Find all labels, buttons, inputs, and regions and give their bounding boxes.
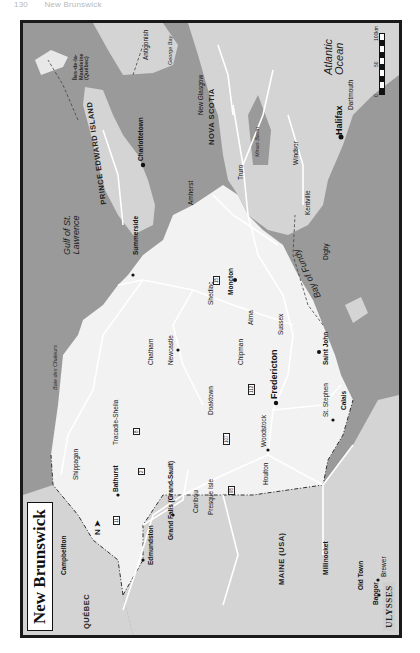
city-halifax: Halifax: [335, 105, 344, 135]
city-millinocket: Millinocket: [323, 541, 330, 575]
city-summerside: Summerside: [133, 216, 140, 255]
city-caribou: Caribou: [193, 490, 200, 513]
city-edmundston: Edmundston: [148, 525, 155, 565]
route-shield: 8: [133, 428, 140, 435]
city-campbellton: Campbellton: [61, 536, 68, 575]
page-number: 130: [14, 0, 28, 9]
city-alma: Alma: [248, 310, 255, 325]
route-shield: 107: [223, 433, 230, 445]
city-brewer: Brewer: [381, 556, 388, 577]
city-sussex: Sussex: [278, 314, 285, 335]
city-fredericton: Fredericton: [270, 349, 279, 399]
city-tracadie: Tracadie-Sheila: [113, 400, 120, 445]
route-shield: 11: [113, 516, 120, 525]
city-digby: Digby: [323, 243, 330, 260]
city-calais: Calais: [341, 391, 348, 410]
city-bathurst: Bathurst: [113, 465, 120, 492]
water-chaleur: Baie des Chaleurs: [53, 345, 59, 390]
city-shediac: Shediac: [208, 282, 215, 306]
chapter-title: New Brunswick: [44, 0, 101, 9]
city-grand-falls: Grand Falls (Grand-Sault): [168, 461, 175, 540]
city-windsor: Windsor: [293, 141, 300, 165]
scale-tick-0: 0: [373, 94, 379, 97]
city-newcastle: Newcastle: [168, 335, 175, 365]
north-label: N: [93, 529, 102, 535]
page-header: 130 New Brunswick: [14, 0, 102, 9]
route-shield: 95: [228, 486, 235, 495]
city-st-stephen: St. Stephen: [323, 383, 330, 417]
map-frame: New Brunswick N ➤ QUÉBEC MAINE (USA) PRI…: [20, 20, 402, 638]
city-bangor: Bangor: [373, 582, 380, 605]
city-chatham: Chatham: [148, 339, 155, 365]
map-canvas: New Brunswick N ➤ QUÉBEC MAINE (USA) PRI…: [23, 23, 399, 635]
region-magdalen: Îles-de-la-Madeleine (Québec): [73, 34, 90, 80]
water-atlantic: Atlantic Ocean: [323, 25, 345, 75]
city-houlton: Houlton: [263, 463, 270, 485]
route-shield: 112: [248, 384, 255, 395]
city-chipman: Chipman: [238, 339, 245, 365]
publisher-logo: ULYSSES: [383, 582, 395, 631]
city-woodstock: Woodstock: [261, 415, 268, 447]
city-truro: Truro: [238, 165, 245, 180]
water-gulf: Gulf of St. Lawrence: [63, 205, 81, 265]
region-maine: MAINE (USA): [278, 532, 286, 585]
region-nova-scotia: NOVA SCOTIA: [208, 88, 216, 145]
city-old-town: Old Town: [358, 561, 365, 590]
scale-tick-50: 50: [373, 61, 379, 67]
city-charlottetown: Charlottetown: [138, 117, 145, 161]
water-george-bay: George Bay: [168, 36, 174, 65]
city-amherst: Amherst: [188, 181, 195, 205]
north-arrow-icon: N ➤: [93, 520, 102, 535]
city-moncton: Moncton: [228, 268, 235, 295]
city-antigonish: Antigonish: [143, 30, 150, 60]
city-saint-john: Saint John: [323, 332, 330, 365]
city-new-glasgow: New Glasgow: [198, 75, 205, 115]
water-minas: Minas Basin: [255, 127, 261, 157]
map-title: New Brunswick: [27, 502, 53, 631]
region-quebec: QUÉBEC: [83, 594, 91, 629]
scale-tick-100: 100km: [373, 26, 379, 41]
city-kentville: Kentville: [305, 190, 312, 215]
city-presque-isle: Presque Isle: [208, 479, 215, 515]
city-shippagan: Shippagan: [73, 449, 80, 480]
route-shield: 15: [213, 276, 220, 285]
city-doaktown: Doaktown: [208, 386, 215, 415]
route-shield: 2: [138, 468, 145, 475]
city-dartmouth: Dartmouth: [348, 80, 355, 110]
